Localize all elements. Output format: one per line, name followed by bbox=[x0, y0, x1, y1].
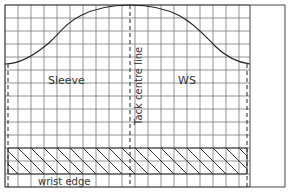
tack-centre-line-label: Tack centre line bbox=[133, 47, 144, 126]
wrist-band bbox=[8, 148, 247, 174]
sleeve-pattern-diagram: Sleeve WS Tack centre line wrist edge bbox=[0, 0, 290, 193]
wrist-edge-label: wrist edge bbox=[38, 176, 90, 187]
hatched-band bbox=[8, 148, 247, 174]
ws-label: WS bbox=[178, 74, 196, 87]
sleeve-label: Sleeve bbox=[48, 74, 85, 87]
